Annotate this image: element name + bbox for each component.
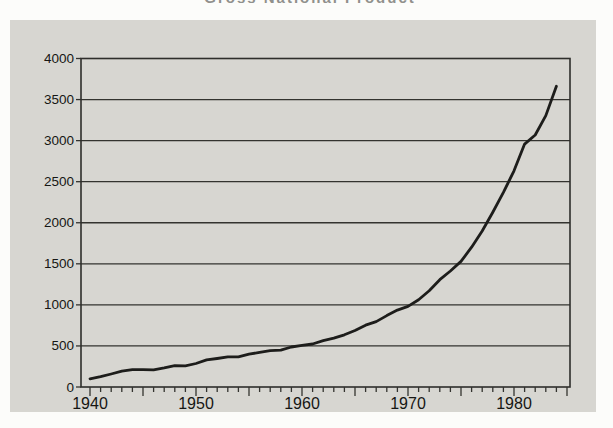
y-tick-label-2500: 2500 <box>44 174 74 189</box>
x-tick-label-1940: 1940 <box>72 395 108 412</box>
y-tick-label-3500: 3500 <box>44 92 74 107</box>
x-tick-label-1950: 1950 <box>178 395 214 412</box>
y-tick-label-4000: 4000 <box>44 51 74 66</box>
gnp-chart-figure: Gross National Product Billions of Dolla… <box>0 0 613 428</box>
x-tick-label-1980: 1980 <box>496 395 532 412</box>
panel-background <box>10 20 596 412</box>
y-tick-label-3000: 3000 <box>44 133 74 148</box>
y-tick-label-1500: 1500 <box>44 256 74 271</box>
y-tick-label-500: 500 <box>51 338 74 353</box>
y-tick-label-2000: 2000 <box>44 215 74 230</box>
x-tick-label-1960: 1960 <box>284 395 320 412</box>
chart-canvas: 0500100015002000250030003500400019401950… <box>0 0 613 428</box>
y-tick-label-1000: 1000 <box>44 297 74 312</box>
y-tick-label-0: 0 <box>66 380 74 395</box>
x-tick-label-1970: 1970 <box>390 395 426 412</box>
